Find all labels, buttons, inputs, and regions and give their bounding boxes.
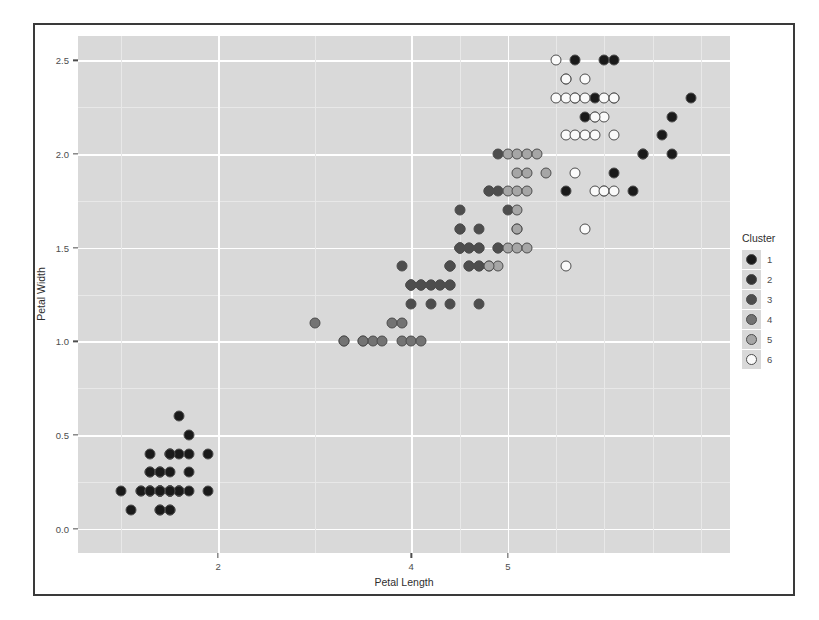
data-point	[357, 336, 368, 347]
data-point	[203, 486, 214, 497]
legend-item[interactable]: 3	[742, 289, 804, 309]
data-point	[145, 448, 156, 459]
data-point	[184, 467, 195, 478]
grid-line	[78, 435, 730, 437]
data-point	[512, 223, 523, 234]
y-tick-mark	[73, 528, 78, 529]
legend-item-label: 5	[767, 334, 772, 345]
grid-line	[460, 36, 461, 553]
y-tick-label: 1.0	[56, 336, 69, 347]
legend-key	[742, 270, 761, 289]
grid-line	[315, 36, 316, 553]
data-point	[473, 223, 484, 234]
y-tick-label: 0.0	[56, 523, 69, 534]
legend-item-label: 4	[767, 314, 772, 325]
data-point	[435, 280, 446, 291]
data-point	[396, 261, 407, 272]
legend-dot-icon	[746, 254, 757, 265]
y-tick-label: 2.0	[56, 149, 69, 160]
data-point	[589, 111, 600, 122]
data-point	[657, 130, 668, 141]
data-point	[638, 149, 649, 160]
grid-line	[78, 529, 730, 531]
x-tick-label: 5	[505, 561, 510, 572]
y-tick-mark	[73, 341, 78, 342]
data-point	[174, 486, 185, 497]
x-tick-mark	[411, 553, 412, 558]
x-tick-label: 4	[409, 561, 414, 572]
data-point	[512, 205, 523, 216]
data-point	[309, 317, 320, 328]
grid-line	[411, 36, 413, 553]
data-point	[589, 130, 600, 141]
legend-item-label: 3	[767, 294, 772, 305]
legend-item-label: 1	[767, 254, 772, 265]
legend-items: 123456	[742, 249, 804, 369]
data-point	[444, 280, 455, 291]
y-tick-label: 1.5	[56, 242, 69, 253]
data-point	[580, 92, 591, 103]
data-point	[609, 55, 620, 66]
grid-line	[78, 248, 730, 250]
grid-line	[556, 36, 557, 553]
legend-key	[742, 350, 761, 369]
scatter-plot: 0.00.51.01.52.02.5 245 Petal Width Petal…	[0, 0, 819, 620]
data-point	[551, 55, 562, 66]
legend-title: Cluster	[742, 232, 804, 244]
x-tick-mark	[507, 553, 508, 558]
grid-line	[78, 482, 730, 483]
data-point	[377, 336, 388, 347]
data-point	[406, 298, 417, 309]
y-tick-mark	[73, 60, 78, 61]
grid-line	[218, 36, 220, 553]
legend-item[interactable]: 2	[742, 269, 804, 289]
legend-item[interactable]: 6	[742, 349, 804, 369]
grid-line	[508, 36, 510, 553]
grid-line	[78, 107, 730, 108]
legend: Cluster 123456	[742, 232, 804, 369]
data-point	[444, 298, 455, 309]
grid-line	[78, 295, 730, 296]
legend-key	[742, 290, 761, 309]
data-point	[174, 448, 185, 459]
data-point	[184, 448, 195, 459]
legend-dot-icon	[746, 354, 757, 365]
data-point	[454, 205, 465, 216]
legend-item[interactable]: 5	[742, 329, 804, 349]
y-tick-mark	[73, 247, 78, 248]
data-point	[667, 111, 678, 122]
data-point	[164, 504, 175, 515]
data-point	[522, 242, 533, 253]
legend-item[interactable]: 1	[742, 249, 804, 269]
data-point	[203, 448, 214, 459]
grid-line	[78, 388, 730, 389]
y-tick-label: 0.5	[56, 429, 69, 440]
plot-panel	[78, 36, 730, 553]
data-point	[155, 467, 166, 478]
data-point	[609, 186, 620, 197]
data-point	[126, 504, 137, 515]
data-point	[415, 336, 426, 347]
data-point	[464, 242, 475, 253]
data-point	[116, 486, 127, 497]
data-point	[164, 486, 175, 497]
grid-line	[78, 154, 730, 156]
data-point	[155, 504, 166, 515]
legend-dot-icon	[746, 314, 757, 325]
data-point	[609, 130, 620, 141]
legend-item[interactable]: 4	[742, 309, 804, 329]
data-point	[396, 317, 407, 328]
legend-dot-icon	[746, 274, 757, 285]
data-point	[667, 149, 678, 160]
data-point	[473, 298, 484, 309]
legend-dot-icon	[746, 334, 757, 345]
data-point	[155, 486, 166, 497]
data-point	[628, 186, 639, 197]
legend-dot-icon	[746, 294, 757, 305]
data-point	[473, 242, 484, 253]
data-point	[184, 486, 195, 497]
data-point	[531, 149, 542, 160]
data-point	[164, 448, 175, 459]
x-axis-title: Petal Length	[375, 576, 434, 588]
data-point	[541, 167, 552, 178]
